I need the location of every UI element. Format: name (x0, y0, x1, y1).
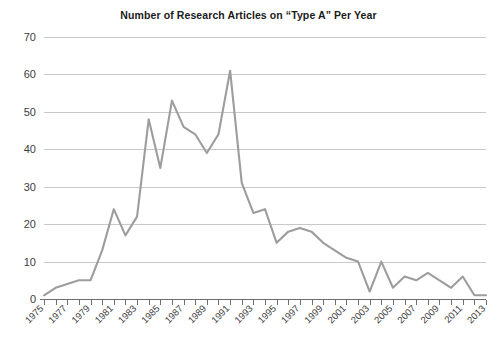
x-tick-label-1995: 1995 (255, 303, 278, 326)
x-tick-label-1997: 1997 (279, 303, 302, 326)
y-tick-label-10: 10 (24, 256, 36, 268)
x-tick-label-1985: 1985 (139, 303, 162, 326)
x-tick-label-2009: 2009 (418, 303, 441, 326)
x-tick-label-1989: 1989 (186, 303, 209, 326)
y-axis-tick-labels: 010203040506070 (24, 31, 36, 305)
gridlines-group (44, 38, 486, 263)
x-tick-label-2003: 2003 (348, 303, 371, 326)
x-tick-label-1999: 1999 (302, 303, 325, 326)
x-tick-label-2005: 2005 (372, 303, 395, 326)
x-tick-label-1981: 1981 (92, 303, 115, 326)
x-tick-label-2011: 2011 (442, 303, 464, 325)
x-tick-label-1977: 1977 (46, 303, 69, 326)
line-chart-plot: 010203040506070 197519771979198119831985… (0, 0, 497, 338)
y-tick-label-40: 40 (24, 143, 36, 155)
y-tick-label-20: 20 (24, 218, 36, 230)
x-tick-label-2007: 2007 (395, 303, 418, 326)
x-tick-label-1979: 1979 (69, 303, 92, 326)
chart-figure: Number of Research Articles on “Type A” … (0, 0, 497, 338)
x-tick-label-1983: 1983 (116, 303, 139, 326)
x-tick-label-1993: 1993 (232, 303, 255, 326)
y-tick-label-50: 50 (24, 106, 36, 118)
x-tick-label-1975: 1975 (23, 303, 46, 326)
x-tick-label-2001: 2001 (325, 303, 348, 326)
x-tick-label-1987: 1987 (162, 303, 185, 326)
x-tick-label-1991: 1991 (209, 303, 232, 326)
y-tick-label-70: 70 (24, 31, 36, 43)
y-tick-label-60: 60 (24, 68, 36, 80)
x-axis-tick-labels: 1975197719791981198319851987198919911993… (23, 303, 488, 326)
y-tick-label-30: 30 (24, 181, 36, 193)
x-tick-label-2013: 2013 (465, 303, 488, 326)
y-tick-label-0: 0 (30, 293, 36, 305)
